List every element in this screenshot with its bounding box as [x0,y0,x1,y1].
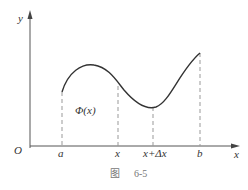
y-axis-arrow-icon [28,10,33,19]
caption-number: 6-5 [134,168,147,179]
tick-label-b: b [197,147,203,159]
tick-label-x: x [114,147,120,159]
area-label: Φ(x) [75,104,96,117]
function-curve [62,53,200,108]
origin-label: O [14,144,22,156]
tick-label-a: a [58,147,64,159]
caption-prefix: 图 [110,168,120,179]
integral-diagram: y O x a x x+Δx b Φ(x) 图 6-5 [0,0,248,190]
y-axis-label: y [17,12,23,24]
x-axis-label: x [233,148,239,160]
tick-label-x-plus-dx: x+Δx [142,147,167,159]
